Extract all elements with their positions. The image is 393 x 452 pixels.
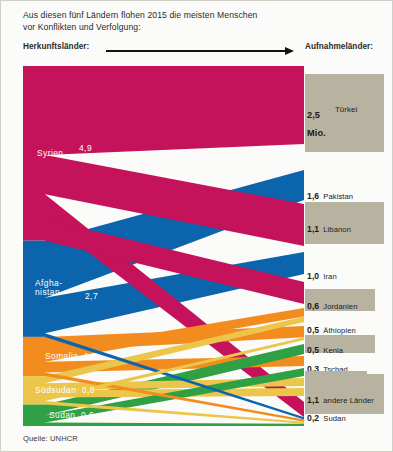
destination-value: 1,6 — [307, 191, 319, 201]
destination-row-türkei: 2,5Mio.Türkei — [307, 104, 326, 140]
destination-value: 1,1 — [307, 395, 319, 405]
destination-row-pakistan: 1,6Pakistan — [307, 185, 353, 203]
destination-name: Sudan — [323, 414, 345, 423]
destination-axis-label: Aufnahmeländer: — [305, 42, 373, 51]
headline-line-1: Aus diesen fünf Ländern flohen 2015 die … — [23, 9, 323, 21]
destination-value: 0,6 — [307, 301, 319, 311]
source-band-syrien — [23, 66, 45, 241]
headline-line-2: vor Konflikten und Verfolgung: — [23, 21, 323, 33]
source-axis-label: Herkunftsländer: — [23, 42, 89, 51]
flow-sudan-to-andere-länder — [45, 422, 304, 426]
destination-name: Libanon — [323, 225, 351, 234]
source-band-südsudan — [23, 376, 45, 405]
right-arrow-icon — [106, 48, 296, 54]
source-note: Quelle: UNHCR — [23, 434, 78, 443]
destination-name: Jordanien — [323, 302, 357, 311]
source-band-afghanistan — [23, 241, 45, 337]
destination-name: Kenia — [323, 346, 343, 355]
destination-name: Äthiopien — [323, 326, 356, 335]
axis-caption-row: Herkunftsländer: Aufnahmeländer: — [23, 42, 381, 56]
destination-value: 2,5Mio. — [307, 110, 326, 138]
destination-value: 0,5 — [307, 345, 319, 355]
destination-row-jordanien: 0,6Jordanien — [307, 295, 358, 313]
destination-name: Iran — [323, 272, 337, 281]
destination-list: 2,5Mio.Türkei1,6Pakistan1,1Libanon1,0Ira… — [298, 58, 393, 430]
destination-value: 0,5 — [307, 325, 319, 335]
destination-name: andere Länder — [323, 396, 374, 405]
page-title: Aus diesen fünf Ländern flohen 2015 die … — [23, 9, 323, 33]
destination-row-andere-länder: 1,1andere Länder — [307, 389, 374, 407]
destination-row-kenia: 0,5Kenia — [307, 339, 343, 357]
destination-name: Pakistan — [323, 192, 353, 201]
destination-value: 1,0 — [307, 271, 319, 281]
destination-value: 0,2 — [307, 413, 319, 423]
source-band-somalia — [23, 337, 45, 376]
destination-row-iran: 1,0Iran — [307, 265, 337, 283]
infographic-root: Aus diesen fünf Ländern flohen 2015 die … — [0, 0, 393, 452]
flow-syrien-to-türkei — [45, 66, 304, 155]
destination-name: Türkei — [335, 105, 357, 114]
destination-row-libanon: 1,1Libanon — [307, 218, 351, 236]
destination-value: 1,1 — [307, 224, 319, 234]
source-band-sudan — [23, 405, 45, 426]
